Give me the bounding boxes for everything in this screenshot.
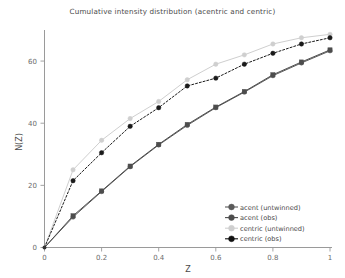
chart-figure: Cumulative intensity distribution (acent… [0, 0, 345, 278]
legend-marker-3[interactable] [229, 236, 235, 242]
plot-area: 0204060 00.20.40.60.81 Z N(Z) acent (unt… [0, 0, 345, 278]
y-tick-label: 40 [28, 120, 37, 128]
data-point [214, 62, 218, 66]
data-point [299, 36, 303, 40]
data-point [299, 42, 303, 46]
data-point [242, 62, 246, 66]
x-tick-label: 0.4 [153, 254, 165, 262]
data-point [185, 78, 189, 82]
y-tick-label: 60 [28, 58, 37, 66]
legend-label-0[interactable]: acent (untwinned) [240, 204, 301, 212]
data-point [185, 84, 189, 88]
data-point [128, 164, 132, 168]
x-tick-label: 1 [328, 254, 332, 262]
x-tick-label: 0.2 [96, 254, 107, 262]
x-tick-label: 0.6 [210, 254, 222, 262]
x-axis-ticks: 00.20.40.60.81 [42, 248, 332, 263]
data-point [99, 138, 103, 142]
data-point [328, 48, 332, 52]
legend-marker-1[interactable] [229, 215, 235, 221]
data-point [299, 60, 303, 64]
data-point [242, 89, 246, 93]
legend-label-1[interactable]: acent (obs) [240, 214, 277, 222]
origin-data-point [43, 246, 47, 250]
data-point [157, 99, 161, 103]
data-point [214, 105, 218, 109]
y-axis-title: N(Z) [15, 133, 24, 151]
data-point [157, 105, 161, 109]
data-point [128, 116, 132, 120]
data-point [71, 168, 75, 172]
legend-marker-2[interactable] [229, 225, 235, 231]
data-point [328, 36, 332, 40]
data-point [157, 142, 161, 146]
legend-label-3[interactable]: centric (obs) [240, 235, 282, 243]
data-point [271, 51, 275, 55]
x-axis-title: Z [185, 265, 191, 274]
x-tick-label: 0.8 [267, 254, 278, 262]
data-point [71, 214, 75, 218]
data-point [271, 42, 275, 46]
data-point [271, 73, 275, 77]
axes-group [44, 30, 332, 248]
series-centric-untwinned- [45, 32, 333, 247]
data-point [71, 178, 75, 182]
legend-label-2[interactable]: centric (untwinned) [240, 225, 305, 233]
x-tick-label: 0 [42, 254, 46, 262]
y-tick-label: 20 [28, 182, 37, 190]
data-series-group [43, 32, 333, 249]
y-tick-label: 0 [33, 244, 37, 252]
data-point [100, 189, 104, 193]
data-point [128, 124, 132, 128]
data-point [99, 151, 103, 155]
data-point [242, 53, 246, 57]
legend-marker-0[interactable] [229, 204, 235, 210]
chart-legend: acent (untwinned)acent (obs)centric (unt… [225, 204, 305, 244]
data-point [185, 122, 189, 126]
series-line [45, 34, 331, 247]
data-point [214, 76, 218, 80]
y-axis-ticks: 0204060 [28, 58, 44, 252]
